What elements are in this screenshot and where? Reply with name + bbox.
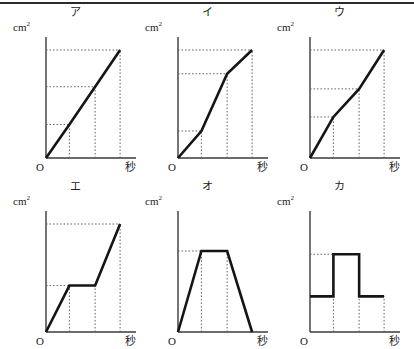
data-line-e [178,251,252,332]
graph-panel-f: カcm2O秒 [272,180,407,349]
plot-area-e [140,180,275,349]
plot-area-c [272,6,407,176]
plot-area-b [140,6,275,176]
origin-label-a: O [36,161,44,173]
plot-area-a [8,6,143,176]
origin-label-b: O [168,161,176,173]
origin-label-f: O [300,335,308,347]
origin-label-e: O [168,335,176,347]
data-line-c [310,50,384,158]
origin-label-d: O [36,335,44,347]
graph-panel-b: イcm2O秒 [140,6,275,176]
graph-panel-e: オcm2O秒 [140,180,275,349]
x-axis-unit-label-a: 秒 [125,161,136,173]
x-axis-unit-label-f: 秒 [389,335,400,347]
x-axis-unit-label-b: 秒 [257,161,268,173]
plot-area-d [8,180,143,349]
graph-panel-c: ウcm2O秒 [272,6,407,176]
graph-panel-a: アcm2O秒 [8,6,143,176]
x-axis-unit-label-d: 秒 [125,335,136,347]
plot-area-f [272,180,407,349]
x-axis-unit-label-c: 秒 [389,161,400,173]
x-axis-unit-label-e: 秒 [257,335,268,347]
data-line-a [46,50,120,158]
data-line-b [178,50,252,158]
data-line-d [46,224,120,332]
graph-panel-d: エcm2O秒 [8,180,143,349]
origin-label-c: O [300,161,308,173]
graph-grid: アcm2O秒イcm2O秒ウcm2O秒エcm2O秒オcm2O秒カcm2O秒 [0,0,414,349]
data-line-f [310,254,384,296]
figure-page: アcm2O秒イcm2O秒ウcm2O秒エcm2O秒オcm2O秒カcm2O秒 [0,0,414,349]
